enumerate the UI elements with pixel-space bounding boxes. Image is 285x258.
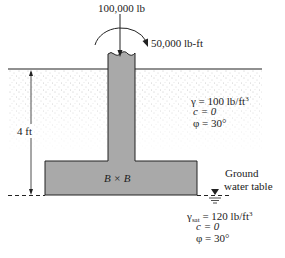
lower-soil-cohesion: c = 0 — [196, 220, 219, 232]
depth-label: 4 ft — [17, 125, 32, 137]
water-table-label-line1: Ground — [225, 167, 259, 179]
footing-diagram: 100,000 lb 50,000 lb-ft 4 ft B × B γ = 1… — [0, 0, 285, 258]
upper-soil-cohesion: c = 0 — [193, 105, 216, 117]
moment-arrow-icon — [95, 28, 148, 47]
water-table-label-line2: water table — [224, 180, 273, 192]
load-arrow-icon — [118, 14, 123, 57]
moment-label: 50,000 lb-ft — [151, 37, 203, 49]
vertical-load-label: 100,000 lb — [98, 2, 145, 14]
footing-size-label: B × B — [104, 172, 130, 184]
upper-soil-friction-angle: φ = 30° — [193, 117, 226, 129]
lower-soil-friction-angle: φ = 30° — [196, 232, 229, 244]
